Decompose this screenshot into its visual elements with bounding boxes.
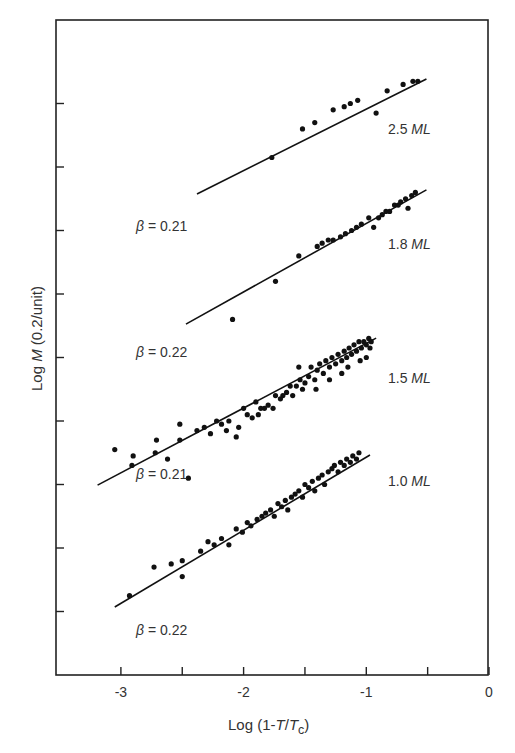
data-point (326, 237, 331, 242)
data-point (269, 155, 274, 160)
data-point (154, 437, 159, 442)
data-point (212, 542, 217, 547)
data-point (273, 279, 278, 284)
x-tick-label: -2 (237, 684, 249, 700)
data-point (413, 190, 418, 195)
data-point (387, 209, 392, 214)
data-point (131, 453, 136, 458)
data-point (415, 79, 420, 84)
data-point (153, 450, 158, 455)
data-point (129, 463, 134, 468)
series-label: 1.8 ML (388, 236, 431, 252)
data-point (356, 339, 361, 344)
data-point (355, 98, 360, 103)
x-tick-label: -1 (360, 684, 372, 700)
data-point (283, 498, 288, 503)
data-point (320, 472, 325, 477)
y-axis-label: Log M (0.2/unit) (28, 259, 45, 419)
data-point (180, 574, 185, 579)
data-point (236, 425, 241, 430)
data-point (323, 358, 328, 363)
data-point (272, 514, 277, 519)
data-point (266, 403, 271, 408)
data-point (169, 561, 174, 566)
data-point (385, 88, 390, 93)
data-point (327, 377, 332, 382)
data-point (300, 495, 305, 500)
data-point (331, 237, 336, 242)
data-point (202, 425, 207, 430)
data-point (354, 349, 359, 354)
data-point (333, 361, 338, 366)
data-point (358, 358, 363, 363)
data-point (354, 457, 359, 462)
data-point (194, 428, 199, 433)
data-point (342, 104, 347, 109)
data-point (285, 507, 290, 512)
data-point (401, 82, 406, 87)
data-point (349, 352, 354, 357)
series-label: 1.0 ML (388, 473, 431, 489)
data-point (241, 406, 246, 411)
series-label: 1.5 ML (388, 370, 431, 386)
data-point (312, 120, 317, 125)
data-point (219, 536, 224, 541)
data-point (263, 510, 268, 515)
data-point (348, 460, 353, 465)
data-point (405, 206, 410, 211)
data-point (366, 215, 371, 220)
data-point (343, 231, 348, 236)
data-point (310, 479, 315, 484)
data-point (273, 393, 278, 398)
data-point (359, 345, 364, 350)
data-point (335, 469, 340, 474)
plot-frame (56, 20, 488, 675)
data-point (151, 564, 156, 569)
data-point (315, 244, 320, 249)
data-point (296, 364, 301, 369)
data-point (284, 390, 289, 395)
beta-label: β = 0.21 (136, 218, 187, 234)
data-point (332, 463, 337, 468)
data-point (320, 241, 325, 246)
data-point (180, 558, 185, 563)
data-point (347, 345, 352, 350)
data-point (398, 199, 403, 204)
data-point (177, 437, 182, 442)
data-point (290, 393, 295, 398)
data-point (349, 228, 354, 233)
data-point (317, 361, 322, 366)
x-tick-label: 0 (485, 684, 493, 700)
data-point (315, 368, 320, 373)
data-point (230, 317, 235, 322)
data-point (254, 517, 259, 522)
data-point (321, 371, 326, 376)
data-point (296, 488, 301, 493)
beta-label: β = 0.22 (136, 344, 187, 360)
data-point (339, 358, 344, 363)
data-point (112, 447, 117, 452)
data-point (224, 428, 229, 433)
data-point (250, 415, 255, 420)
data-point (296, 253, 301, 258)
data-point (342, 349, 347, 354)
data-point (306, 374, 311, 379)
data-point (279, 504, 284, 509)
data-point (300, 126, 305, 131)
data-point (369, 339, 374, 344)
data-point (344, 355, 349, 360)
data-point (364, 355, 369, 360)
data-point (198, 549, 203, 554)
data-point (306, 485, 311, 490)
data-point (219, 422, 224, 427)
data-point (312, 377, 317, 382)
data-point (335, 352, 340, 357)
data-point (331, 107, 336, 112)
data-point (245, 412, 250, 417)
beta-label: β = 0.21 (136, 466, 187, 482)
data-point (345, 364, 350, 369)
series-label: 2.5 ML (388, 121, 431, 137)
data-point (322, 482, 327, 487)
data-point (226, 542, 231, 547)
data-point (256, 412, 261, 417)
